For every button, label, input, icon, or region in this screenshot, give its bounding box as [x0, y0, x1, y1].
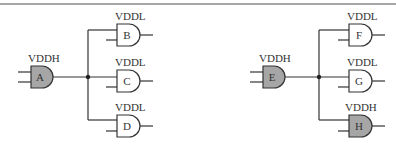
supply-label: VDDL: [347, 56, 378, 68]
gate-name: D: [123, 120, 131, 132]
gate-h: H VDDH: [338, 101, 385, 137]
supply-label: VDDL: [115, 10, 146, 22]
supply-label: VDDL: [347, 10, 378, 22]
gate-name: C: [123, 75, 130, 87]
gate-name: H: [355, 120, 363, 132]
gate-a: A VDDH: [18, 52, 60, 88]
gate-c: C VDDL: [106, 56, 153, 92]
supply-label: VDDL: [115, 101, 146, 113]
supply-label: VDDL: [115, 56, 146, 68]
gate-b: B VDDL: [106, 10, 153, 46]
circuit-left: A VDDH B VDDL C VDDL D: [18, 10, 153, 137]
gate-name: E: [269, 71, 276, 83]
supply-label: VDDH: [259, 52, 291, 64]
gate-name: G: [355, 75, 363, 87]
supply-label: VDDH: [28, 52, 60, 64]
gate-d: D VDDL: [106, 101, 153, 137]
gate-g: G VDDL: [338, 56, 385, 92]
gate-name: F: [356, 29, 362, 41]
gate-f: F VDDL: [338, 10, 385, 46]
circuit-right: E VDDH F VDDL G VDDL H: [250, 10, 385, 137]
supply-label: VDDH: [345, 101, 377, 113]
junction-dot: [317, 75, 321, 79]
gate-name: B: [123, 29, 130, 41]
junction-dot: [86, 75, 90, 79]
dual-supply-fanout-diagram: A VDDH B VDDL C VDDL D: [0, 0, 396, 145]
gate-name: A: [36, 71, 44, 83]
gate-e: E VDDH: [250, 52, 291, 88]
